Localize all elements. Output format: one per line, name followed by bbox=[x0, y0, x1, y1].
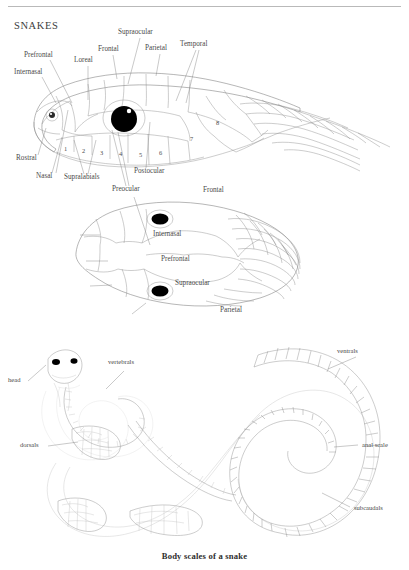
body-scales-figure bbox=[0, 335, 409, 555]
label-internasal-lateral: Internasal bbox=[14, 69, 42, 76]
label-frontal-lateral: Frontal bbox=[98, 46, 119, 53]
figure-caption: Body scales of a snake bbox=[0, 551, 409, 561]
label-internasal-dorsal: Internasal bbox=[153, 231, 181, 238]
lateral-head-figure: 1 2 3 4 5 6 7 8 bbox=[0, 0, 409, 200]
label-prefrontal-dorsal: Prefrontal bbox=[161, 256, 190, 263]
body-outline bbox=[42, 387, 374, 536]
label-supralabials: Supralabials bbox=[64, 174, 100, 181]
label-temporal: Temporal bbox=[180, 41, 207, 48]
plate-page: SNAKES bbox=[0, 0, 409, 570]
label-loreal: Loreal bbox=[74, 57, 93, 64]
label-parietal-dorsal: Parietal bbox=[220, 307, 242, 314]
body-head-detail bbox=[48, 350, 82, 411]
scale-number-5: 5 bbox=[139, 151, 142, 158]
label-postocular: Postocular bbox=[134, 168, 164, 175]
scale-number-3: 3 bbox=[100, 149, 103, 156]
scale-number-1: 1 bbox=[64, 145, 67, 152]
dorsal-head-plates bbox=[84, 209, 262, 299]
lateral-head-plates bbox=[42, 74, 268, 165]
dorsal-body-scale-mesh bbox=[206, 213, 300, 306]
label-ventrals: ventrals bbox=[337, 348, 358, 355]
label-prefrontal-lateral: Prefrontal bbox=[24, 52, 53, 59]
scale-number-2: 2 bbox=[82, 147, 85, 154]
dorsal-keeled-scale-patches bbox=[58, 426, 202, 536]
label-dorsals: dorsals bbox=[20, 442, 39, 449]
dorsal-leader-lines bbox=[80, 197, 150, 314]
label-supraocular-dorsal: Supraocular bbox=[175, 280, 210, 287]
label-parietal-lateral: Parietal bbox=[145, 45, 167, 52]
lateral-body-scale-mesh bbox=[240, 96, 380, 171]
label-anal-scale: anal scale bbox=[362, 442, 388, 449]
label-frontal-dorsal: Frontal bbox=[203, 187, 224, 194]
body-leader-lines bbox=[28, 357, 358, 507]
scale-number-6: 6 bbox=[159, 149, 162, 156]
label-nasal: Nasal bbox=[36, 173, 52, 180]
scale-numbers: 1 2 3 4 5 6 7 8 bbox=[64, 119, 219, 158]
lateral-head-outline bbox=[34, 73, 390, 167]
dorsal-head-figure bbox=[0, 185, 409, 325]
vertebral-scale-row bbox=[64, 387, 236, 501]
scale-number-7: 7 bbox=[190, 135, 194, 142]
tail-subcaudal-rows bbox=[230, 407, 336, 533]
lateral-eye bbox=[103, 100, 145, 136]
label-vertebrals: vertebrals bbox=[108, 359, 134, 366]
label-subcaudals: subcaudals bbox=[354, 505, 383, 512]
label-head: head bbox=[8, 377, 20, 384]
scale-number-8: 8 bbox=[216, 119, 219, 126]
label-supraocular-lateral: Supraocular bbox=[118, 29, 153, 36]
label-rostral: Rostral bbox=[16, 155, 37, 162]
